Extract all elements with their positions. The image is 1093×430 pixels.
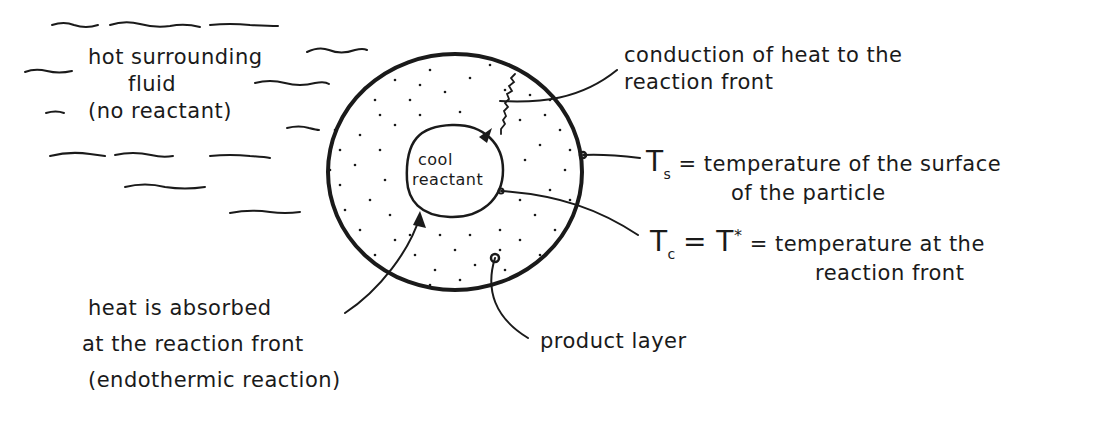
- absorbed-arrow-icon: [413, 211, 426, 228]
- conduction-leader: [500, 70, 617, 101]
- core-line-1: cool: [412, 150, 483, 170]
- conduction-line-1: conduction of heat to the: [624, 42, 902, 69]
- front-temp-line-2: reaction front: [650, 260, 985, 287]
- conduction-line-2: reaction front: [624, 69, 902, 96]
- diagram-canvas: hot surrounding fluid (no reactant) cool…: [0, 0, 1093, 430]
- conduction-zigzag: [501, 74, 515, 134]
- surface-temp-label: Ts = temperature of the surface of the p…: [646, 148, 1001, 207]
- front-temp-line-1: = temperature at the: [750, 232, 985, 256]
- surface-temp-line-1: = temperature of the surface: [679, 152, 1002, 176]
- conduction-label: conduction of heat to the reaction front: [624, 42, 902, 96]
- surface-temp-line-2: of the particle: [646, 180, 1001, 207]
- tstar-superscript: *: [734, 226, 743, 245]
- core-label: cool reactant: [412, 150, 483, 190]
- ts-symbol: T: [646, 145, 664, 178]
- ts-subscript: s: [664, 166, 672, 182]
- heat-absorbed-label: heat is absorbed at the reaction front (…: [88, 290, 341, 398]
- surrounding-fluid-label: hot surrounding fluid (no reactant): [88, 44, 263, 125]
- absorbed-line-3: (endothermic reaction): [88, 362, 341, 398]
- tc-subscript: c: [668, 246, 676, 262]
- surface-temp-leader: [583, 155, 640, 158]
- absorbed-line-2: at the reaction front: [82, 326, 341, 362]
- product-layer-label: product layer: [540, 328, 687, 355]
- tc-equals-tstar: = T: [683, 225, 734, 258]
- product-layer-text: product layer: [540, 329, 687, 353]
- surrounding-line-2: fluid: [88, 71, 263, 98]
- tc-symbol: T: [650, 225, 668, 258]
- surrounding-line-1: hot surrounding: [88, 44, 263, 71]
- front-temp-leader: [501, 191, 638, 235]
- front-temp-label: Tc = T* = temperature at the reaction fr…: [650, 228, 985, 287]
- absorbed-line-1: heat is absorbed: [88, 290, 341, 326]
- surrounding-line-3: (no reactant): [88, 98, 263, 125]
- absorbed-leader: [345, 216, 420, 313]
- core-line-2: reactant: [412, 170, 483, 190]
